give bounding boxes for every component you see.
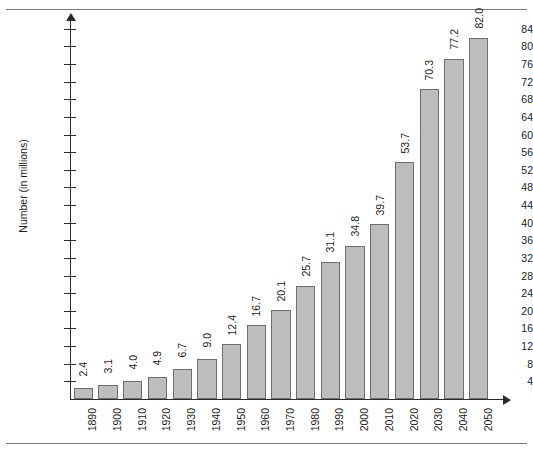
y-axis-tick-label: 44 — [507, 200, 533, 211]
bar[interactable] — [98, 385, 117, 399]
bar-value-label: 6.7 — [177, 343, 188, 358]
page-rule-top — [6, 9, 527, 10]
bar-value-label: 9.0 — [202, 333, 213, 348]
x-axis-tick-label: 1900 — [112, 408, 123, 431]
bar[interactable] — [345, 246, 364, 399]
bar-value-label: 16.7 — [251, 296, 262, 316]
y-axis-tick-label: 64 — [507, 112, 533, 123]
y-axis-title: Number (in millions) — [17, 116, 29, 256]
bar[interactable] — [173, 369, 192, 399]
y-axis-tick-label: 24 — [507, 288, 533, 299]
x-axis-tick-label: 1990 — [334, 408, 345, 431]
bar-slot: 25.7 — [296, 20, 315, 399]
bar-slot: 3.1 — [98, 20, 117, 399]
y-axis-tick-label: 28 — [507, 271, 533, 282]
x-axis-line — [70, 399, 505, 400]
bar[interactable] — [247, 325, 266, 399]
x-axis-tick-label: 1890 — [87, 408, 98, 431]
bar-chart: Number (in millions) 4812162024283236404… — [0, 12, 533, 440]
bar-slot: 9.0 — [197, 20, 216, 399]
bar[interactable] — [296, 286, 315, 399]
x-axis-tick-label: 1910 — [137, 408, 148, 431]
x-axis-tick-label: 1980 — [310, 408, 321, 431]
y-axis-tick-label: 72 — [507, 77, 533, 88]
bar[interactable] — [148, 377, 167, 399]
bar-value-label: 3.1 — [103, 359, 114, 374]
bar-value-label: 25.7 — [300, 256, 311, 276]
bar-slot: 39.7 — [370, 20, 389, 399]
y-axis-tick-label: 40 — [507, 218, 533, 229]
bar-value-label: 20.1 — [276, 281, 287, 301]
x-axis-tick-label: 2030 — [433, 408, 444, 431]
bar-value-label: 70.3 — [424, 60, 435, 80]
x-axis-tick-label: 2050 — [483, 408, 494, 431]
x-axis-tick-label: 2020 — [409, 408, 420, 431]
bar-slot: 31.1 — [321, 20, 340, 399]
bar-slot: 4.9 — [148, 20, 167, 399]
bar-value-label: 4.0 — [128, 355, 139, 370]
y-axis-tick-label: 52 — [507, 165, 533, 176]
x-axis-tick-label: 1920 — [161, 408, 172, 431]
bar-slot: 16.7 — [247, 20, 266, 399]
bar[interactable] — [222, 344, 241, 399]
bar-value-label: 12.4 — [226, 315, 237, 335]
bar-slot: 70.3 — [420, 20, 439, 399]
bar[interactable] — [370, 224, 389, 399]
y-axis-tick-label: 84 — [507, 24, 533, 35]
x-axis-tick-label: 1940 — [211, 408, 222, 431]
y-axis-tick-label: 16 — [507, 323, 533, 334]
bar-slot: 77.2 — [444, 20, 463, 399]
bar[interactable] — [321, 262, 340, 399]
bar[interactable] — [420, 89, 439, 399]
bar-slot: 20.1 — [271, 20, 290, 399]
x-axis-tick-label: 1950 — [236, 408, 247, 431]
bar[interactable] — [271, 310, 290, 399]
bar[interactable] — [74, 388, 93, 399]
x-axis-tick-label: 1930 — [186, 408, 197, 431]
bar-slot: 4.0 — [123, 20, 142, 399]
bar[interactable] — [395, 162, 414, 399]
y-axis-tick-label: 76 — [507, 59, 533, 70]
bar-value-label: 34.8 — [350, 216, 361, 236]
bar[interactable] — [469, 38, 488, 399]
bar-value-label: 39.7 — [375, 195, 386, 215]
y-axis-tick-label: 48 — [507, 182, 533, 193]
y-axis-tick-label: 12 — [507, 341, 533, 352]
bar-value-label: 4.9 — [152, 351, 163, 366]
y-axis-tick-label: 56 — [507, 147, 533, 158]
y-axis-tick-label: 60 — [507, 130, 533, 141]
bar-slot: 82.0 — [469, 20, 488, 399]
bar-slot: 12.4 — [222, 20, 241, 399]
bar[interactable] — [123, 381, 142, 399]
bar-value-label: 77.2 — [449, 29, 460, 49]
y-axis-tick-label: 80 — [507, 41, 533, 52]
bar-value-label: 31.1 — [325, 232, 336, 252]
y-axis-tick-label: 68 — [507, 94, 533, 105]
x-axis-tick-label: 1960 — [260, 408, 271, 431]
x-axis-tick-label: 2000 — [359, 408, 370, 431]
bar-slot: 53.7 — [395, 20, 414, 399]
y-axis-tick-label: 8 — [507, 359, 533, 370]
x-axis-tick-label: 2010 — [384, 408, 395, 431]
bar[interactable] — [444, 59, 463, 399]
plot-area: 2.43.14.04.96.79.012.416.720.125.731.134… — [71, 20, 491, 399]
x-axis-tick-label: 1970 — [285, 408, 296, 431]
page-rule-bottom — [6, 443, 527, 444]
y-axis-tick-label: 36 — [507, 235, 533, 246]
y-axis-tick-label: 32 — [507, 253, 533, 264]
bar[interactable] — [197, 359, 216, 399]
bar-slot: 2.4 — [74, 20, 93, 399]
bar-slot: 6.7 — [173, 20, 192, 399]
x-axis-tick-label: 2040 — [458, 408, 469, 431]
bar-value-label: 2.4 — [78, 362, 89, 377]
x-axis-arrow-icon — [503, 395, 511, 405]
bar-slot: 34.8 — [345, 20, 364, 399]
bar-value-label: 82.0 — [473, 8, 484, 28]
y-axis-tick-label: 4 — [507, 376, 533, 387]
bar-value-label: 53.7 — [399, 133, 410, 153]
y-axis-tick-label: 20 — [507, 306, 533, 317]
